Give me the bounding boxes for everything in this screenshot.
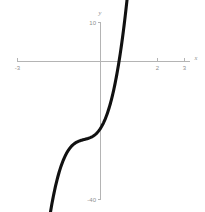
chart-canvas: -3 2 3 10 -40 y x xyxy=(0,0,205,212)
y-axis-label: y xyxy=(98,9,102,16)
y-tick-label-10: 10 xyxy=(89,20,96,26)
cubic-curve xyxy=(38,0,144,212)
x-axis-label: x xyxy=(194,54,198,61)
x-tick-label-3: 3 xyxy=(183,65,187,71)
x-tick-label-2: 2 xyxy=(156,65,160,71)
y-tick-label-neg40: -40 xyxy=(87,197,96,203)
cubic-function-plot: -3 2 3 10 -40 y x xyxy=(0,0,205,212)
x-tick-label-neg3: -3 xyxy=(15,65,21,71)
